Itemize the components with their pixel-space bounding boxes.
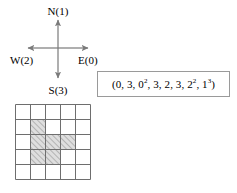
figure-root: N(1) E(0) W(2) S(3) (0, 3, 02, 3, 2, 3, … (0, 0, 237, 193)
grid-cell-shaded (31, 120, 46, 135)
sequence-term: 3 (153, 78, 159, 90)
grid-cell-shaded (31, 135, 46, 150)
polyomino-grid (15, 104, 91, 180)
sequence-term-exponent: 3 (208, 77, 212, 85)
grid-cell-shaded (46, 150, 61, 165)
sequence-term: 13 (202, 78, 211, 90)
polyomino-grid-svg (15, 104, 91, 180)
sequence-text: (0, 3, 02, 3, 2, 3, 22, 13) (112, 78, 215, 90)
sequence-term: 3 (127, 78, 133, 90)
sequence-term: 22 (187, 78, 196, 90)
sequence-box: (0, 3, 02, 3, 2, 3, 22, 13) (97, 71, 230, 97)
grid-cell-shaded (61, 135, 76, 150)
sequence-term-exponent: 2 (193, 77, 197, 85)
sequence-term-exponent: 2 (144, 77, 148, 85)
sequence-term: 2 (165, 78, 171, 90)
compass-label-north: N(1) (0, 6, 116, 17)
sequence-term: 3 (176, 78, 182, 90)
grid-cell-shaded (31, 150, 46, 165)
compass-label-west: W(2) (10, 55, 33, 66)
compass-label-east: E(0) (78, 55, 98, 66)
sequence-term: 0 (116, 78, 122, 90)
grid-shaded-cells (31, 120, 76, 165)
grid-cell-shaded (46, 135, 61, 150)
sequence-term: 02 (138, 78, 147, 90)
